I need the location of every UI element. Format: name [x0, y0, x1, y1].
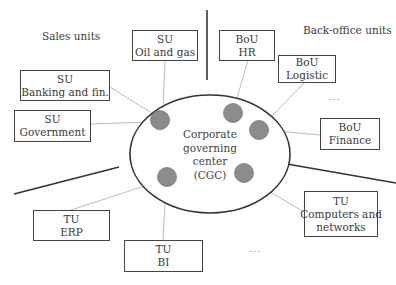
region-label-back-office: Back-office units	[303, 24, 392, 36]
ellipsis-back-office: ...	[328, 91, 341, 102]
unit-box-bou-finance: BoU Finance	[320, 118, 380, 150]
node-sales	[151, 111, 170, 130]
unit-box-tu-erp: TU ERP	[33, 210, 110, 241]
cgc-label: Corporate governing center (CGC)	[170, 128, 250, 182]
node-hr	[224, 104, 243, 123]
unit-box-tu-computers: TU Computers and networks	[304, 191, 378, 237]
unit-box-su-government: SU Government	[14, 110, 91, 142]
unit-box-bou-hr: BoU HR	[219, 30, 275, 61]
unit-box-su-banking: SU Banking and fin.	[20, 70, 110, 101]
node-finance	[250, 121, 269, 140]
region-label-sales: Sales units	[42, 30, 100, 42]
diagram-canvas: Sales units Back-office units Corporate …	[0, 0, 396, 285]
unit-box-bou-logistic: BoU Logistic	[278, 55, 336, 83]
unit-box-su-oil-gas: SU Oil and gas	[132, 30, 198, 61]
divider-left	[14, 167, 119, 194]
divider-right	[287, 164, 396, 183]
ellipsis-tech: ...	[249, 243, 262, 254]
unit-box-tu-bi: TU BI	[124, 240, 203, 272]
